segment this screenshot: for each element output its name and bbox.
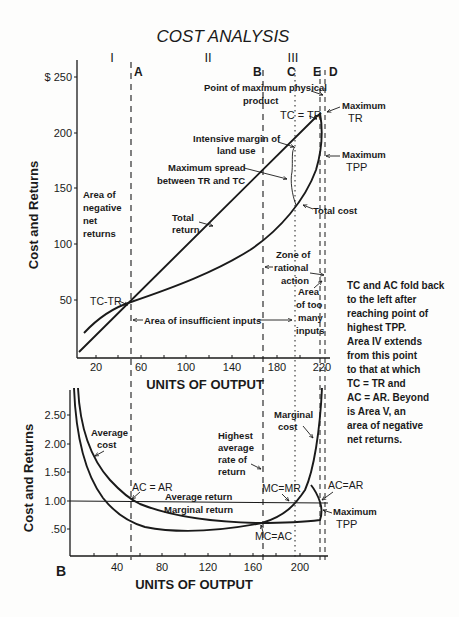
top-x-tick-220: 220 xyxy=(313,361,331,373)
highest-avg-label-2: average xyxy=(218,442,254,453)
area-negative-label-1: Area of xyxy=(83,189,117,200)
too-many-label: Area xyxy=(298,286,320,297)
stage-I-label: I xyxy=(110,50,114,65)
top-y-tick-200: 200 xyxy=(54,127,72,139)
top-annotations: Point of maximum physical product TC = T… xyxy=(83,82,386,336)
top-y-axis-label: Cost and Returns xyxy=(26,161,41,269)
mc-ac-label: MC=AC xyxy=(255,530,292,542)
bottom-y-tick-0.50: .50 xyxy=(51,523,66,535)
maximum-tpp-bottom-label-2: TPP xyxy=(336,518,357,530)
total-return-label-2: return xyxy=(172,224,200,235)
tc-eq-tr-label: TC = TR xyxy=(280,109,322,121)
insufficient-inputs-label: Area of insufficient inputs xyxy=(144,315,261,326)
maximum-tr-label: Maximum xyxy=(342,100,386,111)
marker-D: D xyxy=(329,65,338,79)
marginal-cost-label-2: cost xyxy=(278,421,298,432)
zone-rational-label-2: rational xyxy=(274,262,308,273)
bottom-y-axis-label: Cost and Returns xyxy=(21,424,36,532)
maximum-tr-label-2: TR xyxy=(348,112,363,124)
bottom-y-tick-2.50: 2.50 xyxy=(45,409,66,421)
chart-title: COST ANALYSIS xyxy=(157,27,291,46)
too-many-label-3: many xyxy=(298,312,324,323)
panel-label-B: B xyxy=(56,563,66,579)
maximum-tpp-label: Maximum xyxy=(342,149,386,160)
top-y-tick-50: 50 xyxy=(60,294,72,306)
stage-II-label: II xyxy=(204,50,211,65)
top-x-tick-20: 20 xyxy=(90,361,102,373)
top-x-axis-label: UNITS OF OUTPUT xyxy=(146,377,264,392)
top-x-tick-180: 180 xyxy=(268,361,286,373)
total-cost-label: Total cost xyxy=(313,205,358,216)
side-note: TC and AC fold back to the left after re… xyxy=(347,279,457,447)
intensive-margin-label: Intensive margin of xyxy=(193,133,281,144)
zone-rational-label-3: action xyxy=(281,275,309,286)
average-cost-label: Average xyxy=(91,427,128,438)
top-x-tick-100: 100 xyxy=(177,361,195,373)
zone-rational-label: Zone of xyxy=(276,249,311,260)
bottom-y-tick-1.50: 1.50 xyxy=(45,466,66,478)
ac-ar-right-label: AC=AR xyxy=(328,479,364,491)
max-spread-label-2: between TR and TC xyxy=(157,175,245,186)
area-negative-label-2: negative xyxy=(83,202,122,213)
intensive-margin-label-2: land use xyxy=(217,145,256,156)
point-max-physical-label-2: product xyxy=(243,95,279,106)
average-cost-label-2: cost xyxy=(97,439,117,450)
too-many-label-2: of too xyxy=(296,299,323,310)
tc-tr-left-label: TC-TR xyxy=(90,295,122,307)
top-y-tick-150: 150 xyxy=(54,182,72,194)
marginal-return-label: Marginal return xyxy=(164,504,233,515)
top-x-tick-60: 60 xyxy=(135,361,147,373)
bottom-x-tick-160: 160 xyxy=(244,561,262,573)
marker-A: A xyxy=(134,65,143,79)
marker-B: B xyxy=(253,65,262,79)
top-y-tick-250: $ 250 xyxy=(44,71,72,83)
top-y-tick-100: 100 xyxy=(54,238,72,250)
maximum-tpp-label-2: TPP xyxy=(346,161,367,173)
bottom-x-axis-label: UNITS OF OUTPUT xyxy=(135,577,253,592)
bottom-x-tick-120: 120 xyxy=(199,561,217,573)
marker-C: C xyxy=(287,65,296,79)
top-x-tick-140: 140 xyxy=(223,361,241,373)
stage-III-label: III xyxy=(288,50,299,65)
highest-avg-label-3: rate of xyxy=(218,454,248,465)
bottom-x-tick-80: 80 xyxy=(156,561,168,573)
too-many-label-4: inputs xyxy=(296,325,325,336)
bottom-x-tick-40: 40 xyxy=(111,561,123,573)
total-return-label: Total xyxy=(172,212,194,223)
maximum-tpp-bottom-label: Maximum xyxy=(333,506,377,517)
bottom-y-tick-2.00: 2.00 xyxy=(45,438,66,450)
bottom-y-tick-1.00: 1.00 xyxy=(45,495,66,507)
highest-avg-label: Highest xyxy=(218,430,254,441)
point-max-physical-label: Point of maximum physical xyxy=(204,82,327,93)
bottom-x-tick-200: 200 xyxy=(291,561,309,573)
marginal-cost-label: Marginal xyxy=(274,409,313,420)
area-negative-label-3: net xyxy=(83,215,98,226)
highest-avg-label-4: return xyxy=(218,466,246,477)
mc-mr-label: MC=MR xyxy=(262,482,301,494)
average-return-label: Average return xyxy=(165,491,232,502)
area-negative-label-4: returns xyxy=(83,228,116,239)
max-spread-label: Maximum spread xyxy=(168,162,246,173)
